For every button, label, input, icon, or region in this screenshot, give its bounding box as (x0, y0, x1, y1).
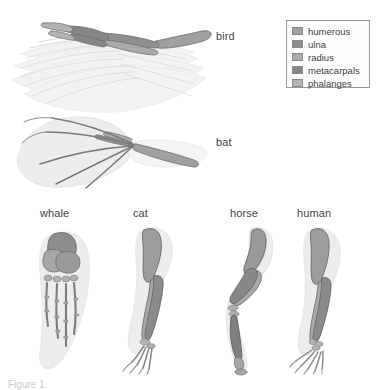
label-bat: bat (216, 136, 232, 148)
legend-item-radius: radius (292, 51, 369, 63)
legend-item-humerous: humerous (292, 25, 369, 37)
legend-item-phalanges: phalanges (292, 77, 369, 89)
label-bird: bird (216, 30, 235, 42)
horse-forelimb-illustration (213, 222, 289, 374)
legend-label-humerous: humerous (308, 27, 350, 36)
bat-wing-membrane (18, 117, 207, 188)
whale-flipper-illustration (18, 222, 110, 372)
legend-label-radius: radius (308, 53, 334, 62)
legend-label-ulna: ulna (308, 40, 326, 49)
legend-swatch-humerous (292, 27, 303, 35)
bird-wing-illustration (8, 14, 218, 114)
bat-wrist-joint (128, 142, 133, 147)
bird-phalanges (41, 23, 73, 32)
legend-label-phalanges: phalanges (308, 79, 352, 88)
cat-forelimb-illustration (118, 222, 204, 374)
legend-label-metacarpals: metacarpals (308, 66, 360, 75)
legend-item-metacarpals: metacarpals (292, 64, 369, 76)
legend-swatch-ulna (292, 40, 303, 48)
bird-humerus (154, 31, 211, 48)
legend-swatch-phalanges (292, 79, 303, 87)
legend-swatch-metacarpals (292, 66, 303, 74)
human-arm-illustration (288, 222, 370, 374)
legend-item-ulna: ulna (292, 38, 369, 50)
label-horse: horse (230, 207, 258, 219)
label-whale: whale (40, 207, 69, 219)
figure-caption: Figure 1. (8, 379, 47, 390)
whale-ulna (56, 251, 80, 273)
label-cat: cat (133, 207, 148, 219)
label-human: human (297, 207, 331, 219)
legend-swatch-radius (292, 53, 303, 61)
horse-bones (228, 229, 266, 375)
bat-wing-illustration (12, 112, 217, 194)
bone-color-legend: humerous ulna radius metacarpals phalang… (286, 20, 370, 88)
